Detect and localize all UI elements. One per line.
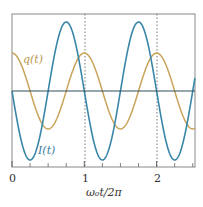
x-tick-1: 1: [82, 172, 89, 185]
x-tick-2: 2: [154, 172, 161, 185]
minor-ticks: [12, 161, 193, 167]
x-tick-0: 0: [9, 172, 16, 185]
q-label: q(t): [23, 53, 43, 66]
x-axis-label: ω₀t/2π: [86, 186, 123, 199]
I-label: I(t): [37, 144, 55, 157]
chart: q(t) I(t) 0 1 2 ω₀t/2π: [0, 0, 203, 207]
